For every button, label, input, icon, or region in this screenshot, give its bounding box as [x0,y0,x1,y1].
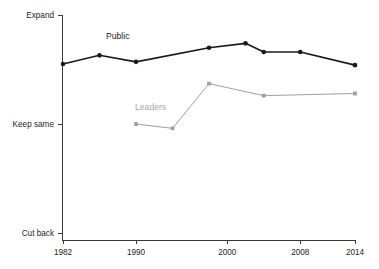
data-point [207,82,211,86]
data-point [97,53,102,58]
data-point [243,41,248,46]
x-axis: 19821990200020082014 [54,240,365,257]
data-point [353,63,358,68]
data-point [353,92,357,96]
series-labels: PublicLeaders [106,31,166,112]
y-axis-tick-label: Expand [26,11,54,20]
series-public [61,41,358,67]
data-point [134,60,139,65]
series-label-public: Public [106,31,130,41]
chart-container: Cut backKeep sameExpand 1982199020002008… [0,0,379,269]
line-chart: Cut backKeep sameExpand 1982199020002008… [0,0,379,269]
x-axis-tick-label: 1982 [54,248,73,257]
y-axis-tick-label: Keep same [13,120,55,129]
data-point [261,50,266,55]
x-axis-tick-label: 1990 [127,248,146,257]
series-leaders [134,82,357,130]
data-point [207,45,212,50]
data-point [61,62,66,67]
series-label-leaders: Leaders [135,102,166,112]
x-axis-tick-label: 2000 [218,248,237,257]
data-point [171,126,175,130]
data-point [134,122,138,126]
x-axis-tick-label: 2008 [291,248,310,257]
series-line-leaders [136,84,355,129]
series-layer [61,41,358,130]
x-axis-tick-label: 2014 [346,248,365,257]
y-axis: Cut backKeep sameExpand [13,11,62,240]
y-axis-tick-label: Cut back [22,229,55,238]
data-point [262,94,266,98]
data-point [298,50,303,55]
